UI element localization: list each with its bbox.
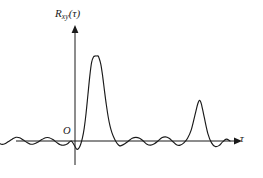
x-axis-label: τ (240, 134, 244, 145)
y-axis-arrow-icon (72, 25, 79, 33)
figure-container: Rxy(τ) O τ (0, 0, 263, 178)
y-axis-label: Rxy(τ) (55, 8, 80, 21)
correlation-curve (0, 56, 230, 150)
y-axis-label-subscript: xy (62, 12, 69, 21)
correlation-plot (0, 0, 263, 178)
y-axis-label-argument: (τ) (69, 7, 80, 19)
y-axis-label-main: R (55, 7, 62, 19)
origin-label: O (63, 126, 71, 137)
